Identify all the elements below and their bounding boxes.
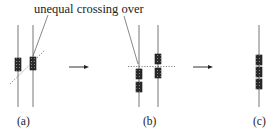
arrow-a-to-b (69, 65, 89, 69)
panel-label-c: (c) (253, 115, 266, 127)
annotation-unequal-crossing-over: unequal crossing over (34, 2, 144, 17)
gene-box-a-right (30, 57, 36, 70)
panel-label-b: (b) (143, 115, 156, 127)
gene-box-b-right-1 (155, 54, 161, 64)
panel-c (256, 25, 262, 107)
diagram-graphics (0, 0, 279, 136)
panel-b (124, 16, 175, 107)
gene-box-b-right-2 (155, 68, 161, 78)
gene-box-b-left-1 (136, 69, 142, 79)
gene-box-b-left-2 (136, 82, 142, 92)
gene-box-c-3 (256, 79, 262, 89)
gene-box-a-left (15, 58, 21, 71)
leader-line-a (33, 15, 48, 56)
panel-label-a: (a) (17, 115, 30, 127)
arrow-b-to-c (193, 65, 213, 69)
diagram-canvas: unequal crossing over (a) (b) (c) (0, 0, 279, 136)
panel-a (10, 15, 48, 107)
gene-box-c-2 (256, 67, 262, 77)
leader-line-b (124, 16, 138, 64)
gene-box-c-1 (256, 55, 262, 65)
